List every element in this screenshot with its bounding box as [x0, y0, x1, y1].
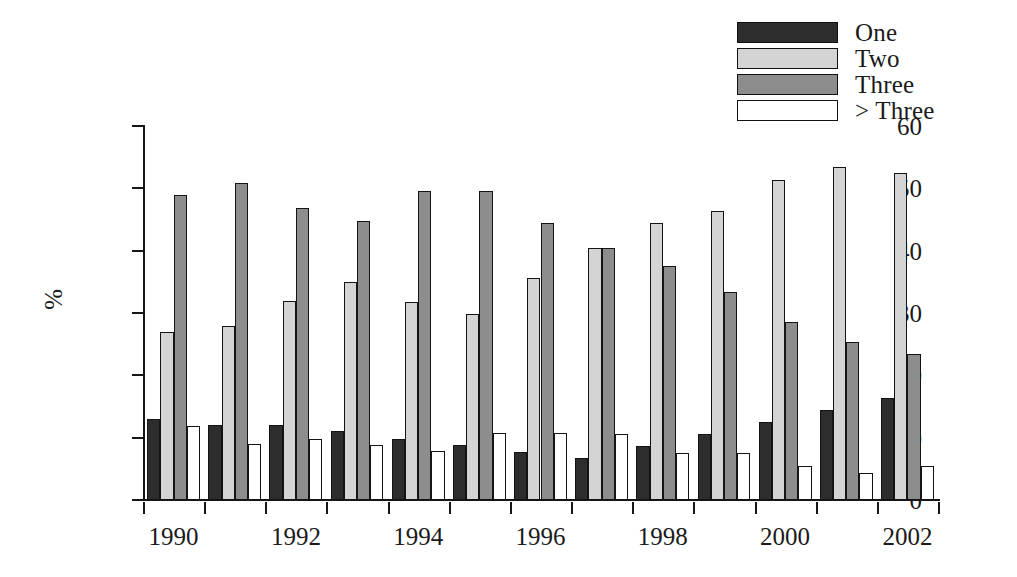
bar: [431, 451, 444, 500]
bar: [479, 191, 492, 500]
bar: [208, 425, 221, 500]
bar: [222, 326, 235, 500]
x-axis-tick-label: 1990: [149, 524, 199, 549]
bar: [466, 314, 479, 500]
bar: [527, 278, 540, 500]
legend-swatch-icon: [737, 22, 838, 43]
bar: [907, 354, 920, 500]
x-axis-tick: [693, 502, 695, 514]
bar: [881, 398, 894, 500]
x-axis-tick: [938, 502, 940, 514]
bar: [894, 173, 907, 500]
x-axis-tick: [265, 502, 267, 514]
y-axis-label: %: [40, 288, 68, 309]
x-axis-tick-label: 1996: [516, 524, 566, 549]
bar: [650, 223, 663, 500]
x-axis-tick: [632, 502, 634, 514]
bar: [160, 332, 173, 500]
y-axis-tick: [132, 499, 143, 501]
bar: [636, 446, 649, 500]
x-axis-tick: [755, 502, 757, 514]
bar: [174, 195, 187, 500]
bar: [453, 445, 466, 500]
legend-item[interactable]: Three: [737, 74, 935, 95]
legend-swatch-icon: [737, 48, 838, 69]
bar: [248, 444, 261, 500]
bar: [344, 282, 357, 500]
legend-item[interactable]: Two: [737, 48, 935, 69]
bar: [283, 301, 296, 500]
x-axis-tick: [388, 502, 390, 514]
bar: [187, 426, 200, 500]
bar: [846, 342, 859, 500]
y-axis-tick: [132, 437, 143, 439]
bar: [235, 183, 248, 500]
x-axis-tick: [204, 502, 206, 514]
bar: [737, 453, 750, 500]
bar: [405, 302, 418, 500]
bar: [309, 439, 322, 500]
x-axis-tick-label: 2002: [882, 524, 932, 549]
legend-item-label: One: [855, 22, 897, 43]
bar: [602, 248, 615, 500]
x-axis-tick: [510, 502, 512, 514]
bar: [785, 322, 798, 500]
x-axis-tick: [571, 502, 573, 514]
bar: [575, 458, 588, 500]
y-axis-tick: [132, 125, 143, 127]
x-axis-tick-label: 1994: [393, 524, 443, 549]
bar: [615, 434, 628, 500]
legend-item-label: Two: [855, 48, 900, 69]
bar: [772, 180, 785, 500]
bar: [493, 433, 506, 500]
x-axis-tick: [143, 502, 145, 514]
y-axis-tick-label: 60: [897, 114, 922, 139]
legend-item-label: Three: [855, 74, 914, 95]
bar: [859, 473, 872, 500]
plot-area: 0102030405060199019921994199619982000200…: [143, 126, 938, 500]
legend-swatch-icon: [737, 74, 838, 95]
bar: [759, 422, 772, 500]
bar: [147, 419, 160, 500]
bar: [676, 453, 689, 500]
bar: [833, 167, 846, 500]
legend-item-label: > Three: [855, 100, 935, 121]
y-axis-tick: [132, 187, 143, 189]
x-axis-tick-label: 1998: [638, 524, 688, 549]
bar-chart-figure: OneTwoThree> Three % 0102030405060199019…: [0, 0, 1017, 577]
bar: [921, 466, 934, 500]
x-axis-tick: [877, 502, 879, 514]
bar: [724, 292, 737, 500]
y-axis-tick: [132, 312, 143, 314]
x-axis-tick: [449, 502, 451, 514]
bar: [663, 266, 676, 500]
bar: [331, 431, 344, 500]
bar: [541, 223, 554, 500]
bar: [514, 452, 527, 500]
chart-legend: OneTwoThree> Three: [737, 22, 935, 121]
bar: [357, 221, 370, 500]
legend-swatch-icon: [737, 100, 838, 121]
x-axis-tick-label: 2000: [760, 524, 810, 549]
bar: [370, 445, 383, 500]
x-axis-tick-label: 1992: [271, 524, 321, 549]
bar: [798, 466, 811, 500]
bar: [698, 434, 711, 500]
x-axis-tick: [816, 502, 818, 514]
y-axis-tick: [132, 374, 143, 376]
bar: [269, 425, 282, 500]
x-axis-tick: [326, 502, 328, 514]
bar: [296, 208, 309, 500]
bar: [392, 439, 405, 500]
bar: [418, 191, 431, 500]
bar: [711, 211, 724, 500]
bar: [588, 248, 601, 500]
bar: [820, 410, 833, 500]
bar: [554, 433, 567, 500]
legend-item[interactable]: One: [737, 22, 935, 43]
y-axis-tick: [132, 250, 143, 252]
